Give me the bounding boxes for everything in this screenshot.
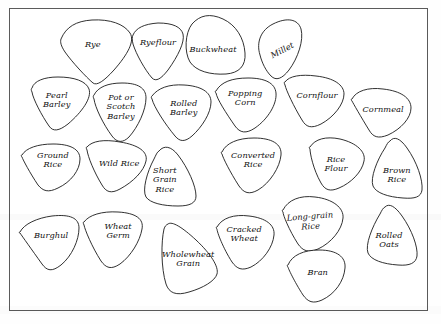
shape-brown-rice — [372, 138, 422, 198]
shape-wholewheat-grain — [162, 223, 217, 293]
shape-ryeflour — [132, 23, 183, 80]
shape-pot-scotch-barley — [93, 83, 146, 141]
grain-chart-page: Rye Ryeflour Buckwheat Millet Pearl Barl… — [0, 0, 441, 324]
shape-rolled-barley — [151, 85, 211, 141]
shape-wheat-germ — [83, 212, 142, 268]
shape-pearl-barley — [31, 77, 89, 130]
shape-buckwheat — [186, 16, 245, 75]
shape-ground-rice — [21, 144, 80, 191]
shape-rice-flour — [309, 138, 364, 190]
shape-millet — [259, 20, 302, 79]
shape-wild-rice — [86, 141, 146, 192]
shape-rye — [61, 20, 132, 84]
shape-rolled-oats — [367, 205, 417, 265]
shape-popping-corn — [215, 78, 276, 132]
shape-burghul — [19, 216, 79, 270]
shape-layer — [0, 0, 441, 324]
shape-cornflour — [284, 75, 344, 127]
shape-bran — [287, 250, 345, 302]
shape-long-grain-rice — [282, 197, 343, 251]
shape-cornmeal — [351, 88, 411, 137]
shape-converted-rice — [221, 138, 281, 193]
shape-short-grain-rice — [145, 147, 196, 206]
shape-cracked-wheat — [216, 215, 274, 269]
